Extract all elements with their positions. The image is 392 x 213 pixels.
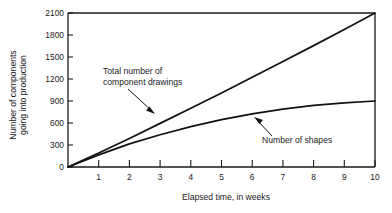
series-line-number-of-shapes bbox=[68, 101, 375, 167]
y-axis-ticks bbox=[68, 13, 73, 167]
x-tick-label: 6 bbox=[250, 172, 255, 182]
y-tick-label: 1200 bbox=[45, 74, 64, 84]
x-axis-ticks bbox=[99, 160, 375, 167]
y-axis-tick-labels: 0 300 600 900 1200 1500 1800 2100 bbox=[45, 8, 64, 172]
annotation-label-line1: Number of shapes bbox=[262, 135, 332, 145]
x-tick-label: 9 bbox=[342, 172, 347, 182]
y-axis-title: Number of components going into producti… bbox=[8, 50, 28, 139]
y-axis-title-line2: going into production bbox=[18, 55, 28, 135]
annotation-arrow-head bbox=[254, 117, 263, 124]
x-tick-label: 1 bbox=[96, 172, 101, 182]
x-tick-label: 2 bbox=[127, 172, 132, 182]
y-axis-title-line1: Number of components bbox=[8, 50, 18, 139]
x-tick-label: 10 bbox=[370, 172, 380, 182]
x-tick-label: 4 bbox=[188, 172, 193, 182]
annotation-arrow-head bbox=[146, 107, 155, 115]
annotation-label-line2: component drawings bbox=[103, 77, 182, 87]
annotation-total-component-drawings: Total number of component drawings bbox=[103, 66, 182, 114]
x-tick-label: 7 bbox=[281, 172, 286, 182]
line-chart: 0 300 600 900 1200 1500 1800 2100 1 2 bbox=[0, 0, 392, 213]
y-tick-label: 1800 bbox=[45, 30, 64, 40]
x-tick-label: 5 bbox=[219, 172, 224, 182]
y-tick-label: 0 bbox=[59, 162, 64, 172]
annotation-label-line1: Total number of bbox=[103, 66, 163, 76]
y-tick-label: 300 bbox=[50, 140, 64, 150]
y-tick-label: 2100 bbox=[45, 8, 64, 18]
x-axis-title: Elapsed time, in weeks bbox=[182, 192, 270, 202]
annotation-leader-line bbox=[128, 89, 152, 111]
chart-figure: 0 300 600 900 1200 1500 1800 2100 1 2 bbox=[0, 0, 392, 213]
x-axis-tick-labels: 1 2 3 4 5 6 7 8 9 10 bbox=[96, 172, 380, 182]
y-tick-label: 900 bbox=[50, 96, 64, 106]
y-tick-label: 600 bbox=[50, 118, 64, 128]
annotation-number-of-shapes: Number of shapes bbox=[254, 117, 332, 145]
y-tick-label: 1500 bbox=[45, 52, 64, 62]
x-tick-label: 3 bbox=[158, 172, 163, 182]
x-tick-label: 8 bbox=[311, 172, 316, 182]
